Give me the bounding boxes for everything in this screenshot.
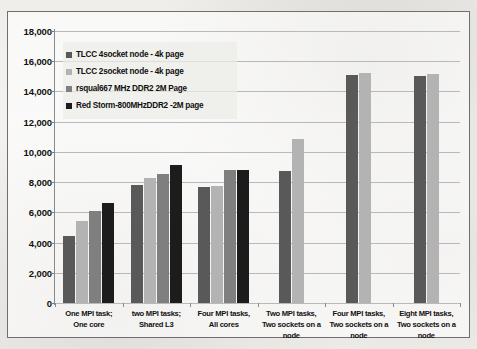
x-axis-tick-mark	[190, 303, 191, 307]
y-axis-tick-label: 2,000	[8, 267, 52, 278]
x-axis-category-label-line: node	[256, 330, 328, 341]
bar	[211, 186, 223, 303]
x-axis-category-label-line: node	[323, 330, 395, 341]
legend-swatch-icon	[66, 52, 72, 58]
x-axis-tick-mark	[55, 303, 56, 307]
bar	[359, 73, 371, 303]
x-axis-category-label-line: All cores	[188, 319, 260, 330]
y-axis-tick-label: 16,000	[8, 56, 52, 67]
bar	[346, 75, 358, 303]
y-axis-tick-label: 14,000	[8, 86, 52, 97]
y-axis-tick-label: 10,000	[8, 146, 52, 157]
legend-item[interactable]: rsqual667 MHz DDR2 2M Page	[66, 80, 234, 97]
x-axis-tick-mark	[325, 303, 326, 307]
legend-item-label: Red Storm-800MHzDDR2 -2M page	[76, 101, 203, 110]
y-axis-tick-label: 0	[8, 298, 52, 309]
x-axis-category-label-line: One MPI task;	[53, 308, 125, 319]
legend-item[interactable]: TLCC 2socket node - 4k page	[66, 63, 234, 80]
legend-item[interactable]: Red Storm-800MHzDDR2 -2M page	[66, 97, 234, 114]
bar-group	[325, 31, 393, 303]
x-axis-tick-mark	[460, 303, 461, 307]
x-axis-category-label-line: Two MPI tasks,	[256, 308, 328, 319]
legend-swatch-icon	[66, 86, 72, 92]
y-axis-tick-label: 18,000	[8, 26, 52, 37]
bar	[427, 74, 439, 303]
bar	[279, 171, 291, 303]
x-axis-tick-mark	[123, 303, 124, 307]
chart-legend: TLCC 4socket node - 4k pageTLCC 2socket …	[63, 42, 237, 119]
x-axis-category-label: Two MPI tasks,Two sockets on anode	[256, 308, 328, 341]
x-axis-tick-mark	[258, 303, 259, 307]
x-axis-category-label: two MPI tasks;Shared L3	[121, 308, 193, 330]
x-axis-category-label-line: Two sockets on a	[256, 319, 328, 330]
bar	[157, 174, 169, 303]
x-axis-category-label-line: two MPI tasks;	[121, 308, 193, 319]
x-axis-category-label: Four MPI tasks,All cores	[188, 308, 260, 330]
chart-frame: 18,00016,00014,00012,00010,0008,0006,000…	[7, 11, 470, 338]
bar	[63, 236, 75, 303]
y-axis-tick-label: 12,000	[8, 116, 52, 127]
x-axis-category-label-line: Four MPI tasks,	[188, 308, 260, 319]
x-axis-tick-mark	[393, 303, 394, 307]
y-axis-tick-label: 8,000	[8, 177, 52, 188]
legend-item-label: TLCC 4socket node - 4k page	[76, 50, 183, 59]
x-axis-category-label: Four MPI tasks,Two sockets on anode	[323, 308, 395, 341]
legend-swatch-icon	[66, 69, 72, 75]
y-axis-tick-label: 6,000	[8, 207, 52, 218]
bar	[102, 203, 114, 303]
legend-item-label: rsqual667 MHz DDR2 2M Page	[76, 84, 187, 93]
bar	[198, 187, 210, 303]
bar	[76, 221, 88, 303]
bar	[237, 170, 249, 303]
x-axis-category-label-line: Eight MPI tasks,	[391, 308, 463, 319]
bar	[292, 139, 304, 303]
x-axis-category-label-line: Shared L3	[121, 319, 193, 330]
bar-group	[393, 31, 461, 303]
bar	[170, 165, 182, 303]
x-axis-category-label-line: One core	[53, 319, 125, 330]
bar-group	[258, 31, 326, 303]
bar	[414, 76, 426, 303]
y-axis-tick-label: 4,000	[8, 237, 52, 248]
bar	[131, 185, 143, 303]
bar	[144, 178, 156, 303]
legend-item-label: TLCC 2socket node - 4k page	[76, 67, 183, 76]
x-axis-category-label-line: Four MPI tasks,	[323, 308, 395, 319]
bar	[224, 170, 236, 303]
x-axis-category-labels: One MPI task;One coretwo MPI tasks;Share…	[55, 308, 460, 349]
x-axis-category-label: Eight MPI tasks,Two sockets on anode	[391, 308, 463, 341]
x-axis-category-label-line: Two sockets on a	[323, 319, 395, 330]
legend-item[interactable]: TLCC 4socket node - 4k page	[66, 46, 234, 63]
x-axis-category-label-line: Two sockets on a	[391, 319, 463, 330]
y-axis-tick-labels: 18,00016,00014,00012,00010,0008,0006,000…	[8, 31, 52, 303]
legend-swatch-icon	[66, 103, 72, 109]
x-axis-category-label-line: node	[391, 330, 463, 341]
x-axis-category-label: One MPI task;One core	[53, 308, 125, 330]
bar	[89, 211, 101, 303]
